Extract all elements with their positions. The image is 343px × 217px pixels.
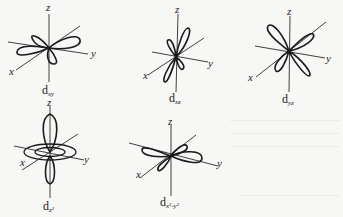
orbital-label-dx2-y2: dx²-y²: [160, 196, 179, 210]
orbital-dxy: [8, 14, 88, 82]
orbital-label-dxy: dxy: [42, 84, 54, 98]
z-axis-label: z: [287, 6, 291, 17]
orbital-label-dxz: dxz: [169, 92, 181, 106]
y-axis-label: y: [217, 158, 222, 169]
x-axis-label: x: [136, 169, 141, 180]
orbital-label-sub: yz: [288, 99, 294, 107]
lobe: [17, 46, 49, 55]
y-axis-label: y: [208, 58, 213, 69]
lobe: [289, 34, 314, 51]
orbital-label-sub: xy: [48, 90, 54, 98]
orbital-dx2-y2: [129, 125, 218, 196]
orbital-label-sub: z²: [49, 206, 54, 214]
z-axis-label: z: [175, 4, 179, 15]
lobe: [275, 51, 289, 71]
z-axis-label: z: [168, 116, 172, 127]
y-axis-label: y: [84, 154, 89, 165]
orbital-dz2: [14, 106, 84, 198]
x-axis-label: x: [9, 66, 14, 77]
orbital-drawings: [0, 0, 343, 217]
d-orbitals-figure: z y x z y x z y x z y x z y x dxy dxz dy…: [0, 0, 343, 217]
orbital-label-sub: xz: [175, 98, 181, 106]
x-axis-label: x: [20, 157, 25, 168]
y-axis-label: y: [326, 53, 331, 64]
orbital-label-sub: x²-y²: [166, 202, 179, 210]
lobe: [49, 37, 80, 49]
z-axis-label: z: [46, 2, 50, 13]
orbital-label-dyz: dyz: [282, 93, 294, 107]
lobe: [176, 28, 190, 57]
lobe: [167, 40, 176, 57]
orbital-label-dz2: dz²: [43, 200, 54, 214]
y-axis-label: y: [91, 48, 96, 59]
orbital-dxz: [148, 14, 208, 92]
lobe: [176, 57, 184, 69]
z-axis-label: z: [47, 97, 51, 108]
orbital-dyz: [255, 16, 326, 92]
lobe: [267, 25, 289, 51]
x-axis-label: x: [143, 70, 148, 81]
x-axis-label: x: [248, 72, 253, 83]
